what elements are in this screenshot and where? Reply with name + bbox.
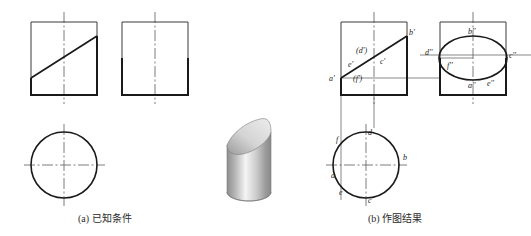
label-c-prime: c' [380,57,386,66]
label-b-point: b [403,153,407,162]
label-d-dprime: d'' [425,48,433,57]
caption-given-conditions: (a) 已知条件 [78,210,132,225]
label-e-point: e [339,188,343,197]
label-b-prime: b' [409,28,415,37]
label-f-point: f [336,135,340,144]
label-e-dprime: e'' [487,79,494,88]
panel-b-result: a' e' (d') (f') c' b' b'' d'' c'' f'' a'… [326,12,531,206]
label-c-point: c [368,196,372,205]
label-a-point: a [331,171,335,180]
side-view-given [121,12,189,104]
top-view-result-point-labels: f d b a e c [331,128,407,205]
front-view-given [30,12,98,104]
label-d-prime: (d') [356,46,367,55]
top-view-given [24,124,105,206]
label-f-dprime: f'' [447,61,453,70]
drawing-canvas: a' e' (d') (f') c' b' b'' d'' c'' f'' a'… [0,0,531,236]
label-a-dprime: a'' [468,81,476,90]
label-b-dprime: b'' [468,27,476,36]
label-a-prime: a' [329,74,335,83]
label-c-dprime: c'' [509,51,516,60]
panel-a-given-conditions [24,12,189,206]
front-view-result-point-labels: a' e' (d') (f') c' b' [329,28,415,83]
label-e-prime: e' [348,60,354,69]
truncated-cylinder-3d [227,119,271,201]
label-f-prime: (f') [353,74,363,83]
engineering-drawing-figure: a' e' (d') (f') c' b' b'' d'' c'' f'' a'… [0,0,531,236]
caption-drawing-result: (b) 作图结果 [368,210,422,225]
front-view-result [340,12,408,104]
